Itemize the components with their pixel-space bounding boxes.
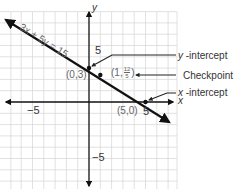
annotation-x-intercept: x -intercept bbox=[178, 88, 227, 98]
checkpoint-fraction: 12 5 bbox=[124, 66, 131, 79]
checkpoint-close: ) bbox=[131, 68, 134, 78]
point-label-x-intercept: (5,0) bbox=[117, 106, 138, 116]
checkpoint-numerator: 12 bbox=[124, 66, 131, 73]
checkpoint-open: (1, bbox=[111, 68, 123, 78]
checkpoint-denominator: 5 bbox=[125, 73, 128, 79]
point-checkpoint bbox=[98, 73, 102, 77]
point-x-intercept bbox=[143, 100, 147, 104]
annotation-y-intercept: y -intercept bbox=[178, 51, 227, 61]
point-label-y-intercept: (0,3) bbox=[66, 70, 87, 80]
annotation-y-text: -intercept bbox=[183, 50, 227, 61]
tick-x-neg5: −5 bbox=[27, 105, 40, 116]
y-axis-label: y bbox=[92, 3, 97, 13]
x-intercept-arrow bbox=[149, 93, 176, 100]
annotation-checkpoint: Checkpoint bbox=[183, 71, 233, 81]
annotation-x-text: -intercept bbox=[183, 87, 227, 98]
point-y-intercept bbox=[87, 66, 91, 70]
tick-x-5: 5 bbox=[143, 106, 149, 117]
tick-y-5: 5 bbox=[95, 45, 101, 56]
tick-y-neg5: −5 bbox=[92, 152, 105, 163]
point-label-checkpoint: (1, 12 5 ) bbox=[111, 66, 135, 79]
